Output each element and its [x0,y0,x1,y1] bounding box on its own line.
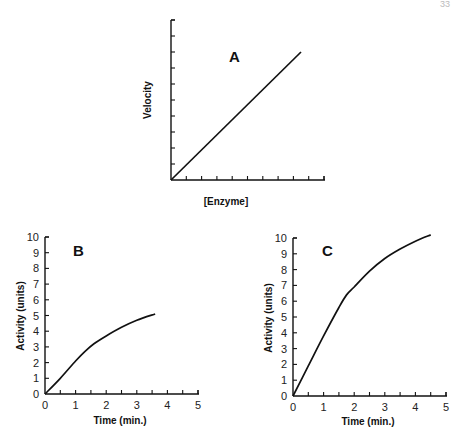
y-tick-label: 0 [281,390,287,402]
y-tick-label: 8 [281,264,287,276]
y-tick-label: 9 [281,248,287,260]
x-tick-label: 5 [195,399,201,411]
y-tick-label: 3 [33,341,39,353]
x-tick-label: 2 [103,399,109,411]
y-axis-title: Activity (units) [263,283,274,352]
x-tick-label: 3 [134,399,140,411]
x-tick-label: 1 [73,399,79,411]
y-tick-label: 10 [27,231,39,243]
y-axis-title: Velocity [142,81,153,119]
y-tick-label: 10 [275,232,287,244]
x-axis-title: Time (min.) [93,415,146,426]
y-tick-label: 9 [33,247,39,259]
x-tick-label: 4 [164,399,170,411]
data-line [45,314,155,394]
x-tick-label: 0 [290,401,296,413]
y-tick-label: 1 [281,374,287,386]
panel-label: C [322,242,333,259]
x-tick-label: 4 [412,401,418,413]
y-tick-label: 2 [281,358,287,370]
y-tick-label: 5 [281,311,287,323]
y-tick-label: 5 [33,310,39,322]
chart-panel-b: 012345012345678910BTime (min.)Activity (… [15,231,201,426]
y-tick-label: 6 [281,295,287,307]
x-axis-title: Time (min.) [341,416,394,427]
y-tick-label: 2 [33,357,39,369]
y-tick-label: 3 [281,343,287,355]
panel-label: A [229,48,240,65]
panel-label: B [73,242,84,259]
chart-panel-a: A[Enzyme]Velocity [142,20,325,207]
x-tick-label: 1 [321,401,327,413]
chart-panel-c: 012345012345678910CTime (min.)Activity (… [263,232,449,427]
y-tick-label: 4 [33,325,39,337]
y-axis-title: Activity (units) [15,281,26,350]
y-tick-label: 1 [33,372,39,384]
y-tick-label: 7 [33,278,39,290]
x-tick-label: 2 [351,401,357,413]
y-tick-label: 7 [281,279,287,291]
x-axis-title: [Enzyme] [204,196,248,207]
data-line [293,235,431,396]
y-tick-label: 0 [33,388,39,400]
data-line [171,52,301,180]
figure-canvas: 33A[Enzyme]Velocity012345012345678910BTi… [0,0,462,440]
page-number: 33 [440,0,450,9]
x-tick-label: 5 [443,401,449,413]
y-tick-label: 6 [33,294,39,306]
y-tick-label: 8 [33,262,39,274]
x-tick-label: 0 [42,399,48,411]
x-tick-label: 3 [382,401,388,413]
y-tick-label: 4 [281,327,287,339]
